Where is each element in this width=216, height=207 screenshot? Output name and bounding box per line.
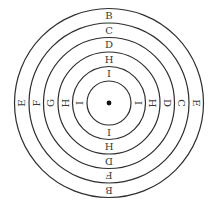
band-3-right-label: D [162,99,173,107]
band-3-bottom-label: D [105,156,113,167]
band-1-right-label: I [133,101,144,105]
band-3-left-label: G [45,99,56,107]
center-dot [107,101,112,106]
band-5-bottom-label: B [105,185,112,196]
concentric-ring-diagram: IIIIHHHHDDDGCCFFBEBE [0,0,216,207]
band-2-right-label: H [147,99,158,108]
band-2-bottom-label: H [104,141,113,152]
band-5-top-label: B [105,10,112,21]
band-3-top-label: D [105,39,113,50]
band-2-top-label: H [105,54,114,65]
band-1-top-label: I [107,68,111,79]
band-1-bottom-label: I [107,127,111,138]
band-2-left-label: H [60,98,71,107]
band-4-bottom-label: F [105,170,112,181]
band-5-left-label: E [16,99,27,106]
band-4-right-label: C [176,99,187,107]
band-4-left-label: F [31,99,42,106]
band-1-left-label: I [74,101,85,105]
band-4-top-label: C [105,25,113,36]
band-5-right-label: E [191,99,202,106]
